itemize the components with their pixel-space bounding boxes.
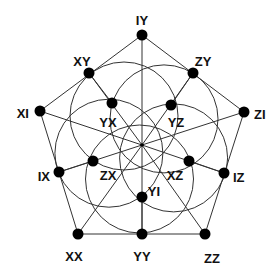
edges-layer [40,35,244,234]
node-label-yi: YI [148,184,160,199]
node-label-zy: ZY [195,54,212,69]
pentagon-diagram: IYXYZYXIZIYXYZZXXZIXIZYIXXYYZZ [0,0,278,270]
circles-layer [55,62,228,233]
node-xz [184,156,195,167]
spoke-xx [78,145,142,234]
node-label-xi: XI [17,106,29,121]
node-label-ix: IX [38,169,51,184]
diagram-canvas: IYXYZYXIZIYXYZZXXZIXIZYIXXYYZZ [0,0,278,270]
node-yz [166,100,177,111]
node-label-yy: YY [133,249,151,264]
node-zx [88,156,99,167]
node-zz [200,229,211,240]
node-label-xz: XZ [167,168,184,183]
node-yi [137,192,148,203]
node-iy [137,30,148,41]
edge-xy-yx [89,73,112,103]
node-iz [219,168,230,179]
node-label-xx: XX [65,249,83,264]
node-label-yz: YZ [168,115,185,130]
node-yx [107,98,118,109]
center-point [140,143,144,147]
node-zi [239,107,250,118]
node-label-zz: ZZ [204,251,220,266]
node-label-iz: IZ [233,170,245,185]
node-label-zx: ZX [100,168,117,183]
node-yy [137,229,148,240]
circle-arc [70,62,178,170]
edge-zy-yz [171,73,193,105]
node-label-xy: XY [73,54,91,69]
labels-layer: IYXYZYXIZIYXYZZXXZIXIZYIXXYYZZ [17,13,266,266]
spoke-xi [40,111,142,145]
node-label-iy: IY [136,13,149,28]
circle-arc [110,65,218,173]
node-xi [35,106,46,117]
node-ix [54,167,65,178]
node-label-zi: ZI [254,107,266,122]
edge-iz-xz [189,161,224,173]
node-label-yx: YX [99,115,117,130]
node-xx [73,229,84,240]
